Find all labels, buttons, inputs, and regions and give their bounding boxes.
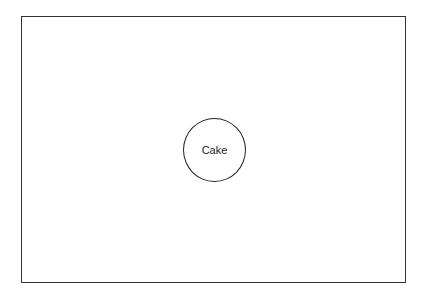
node-label: Cake [202, 144, 228, 156]
node-cake[interactable]: Cake [183, 118, 246, 182]
